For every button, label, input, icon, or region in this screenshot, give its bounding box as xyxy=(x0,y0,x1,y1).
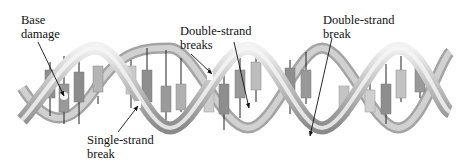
label-line: Single-strand xyxy=(87,133,154,147)
label-double-strand-breaks: Double-strand breaks xyxy=(180,24,252,52)
label-line: break xyxy=(323,27,395,41)
dna-damage-diagram: Base damage Double-strand breaks Double-… xyxy=(0,0,466,165)
label-line: breaks xyxy=(180,38,252,52)
label-line: damage xyxy=(21,27,60,41)
label-line: break xyxy=(87,147,154,161)
single-strand-break-gap xyxy=(135,101,141,108)
label-base-damage: Base damage xyxy=(21,13,60,41)
arrow-single-strand-break xyxy=(118,106,138,132)
label-line: Double-strand xyxy=(323,13,395,27)
label-double-strand-break: Double-strand break xyxy=(323,13,395,41)
label-line: Base xyxy=(21,13,60,27)
label-single-strand-break: Single-strand break xyxy=(87,133,154,161)
double-strand-break-gap-1 xyxy=(207,72,213,80)
label-line: Double-strand xyxy=(180,24,252,38)
